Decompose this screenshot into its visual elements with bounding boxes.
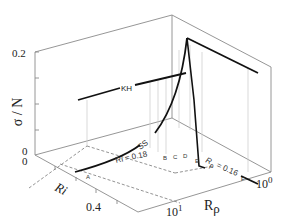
chart-3d: 0.2 0 0 σ / N Ri 0.4 101 100 Rρ KH SS Ri… <box>0 0 293 219</box>
y-axis-label: Rρ <box>204 198 220 216</box>
z-axis-ticks <box>35 52 39 130</box>
peak-branch <box>187 38 258 73</box>
y-tick-10-label: 101 <box>166 203 183 219</box>
axes-box <box>35 15 271 212</box>
point-b: B <box>163 155 167 161</box>
point-e: E <box>195 158 199 164</box>
ri-line-label: Ri = 0.18 <box>115 149 149 165</box>
point-a: A <box>86 174 90 180</box>
x-tick-origin-label: 0 <box>22 155 28 167</box>
kh-label: KH <box>121 84 132 93</box>
point-c: C <box>173 154 178 160</box>
z-axis-label: σ / N <box>10 98 25 127</box>
x-tick-04-label: 0.4 <box>86 200 101 214</box>
z-tick-top-label: 0.2 <box>12 47 26 59</box>
point-f: F <box>241 176 245 182</box>
point-d: D <box>183 153 188 159</box>
x-axis-label: Ri <box>52 179 70 198</box>
drop-lines <box>87 45 248 172</box>
rrho-line-label: Rρ = 0.16 <box>203 156 240 181</box>
y-tick-1-label: 100 <box>256 175 273 191</box>
